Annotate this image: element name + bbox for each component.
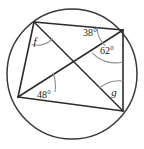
circumscribed-circle — [7, 9, 137, 139]
angle-arc-48 — [53, 73, 55, 92]
angle-label-38: 38° — [83, 27, 97, 38]
quad-edge-bottom — [18, 97, 123, 111]
geometry-canvas: f 38° 62° 48° g — [0, 0, 144, 149]
quad-edge-left — [18, 22, 34, 97]
geometry-figure: f 38° 62° 48° g — [0, 0, 144, 149]
angle-label-g: g — [111, 86, 117, 98]
quad-edge-top — [34, 22, 123, 30]
angle-label-62: 62° — [100, 45, 114, 56]
angle-label-48: 48° — [37, 89, 51, 100]
